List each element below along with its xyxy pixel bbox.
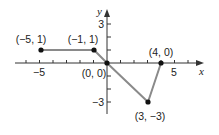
y-axis-label: y [96, 5, 102, 17]
tick-label-x-5: 5 [171, 66, 177, 78]
y-axis-arrow-icon [104, 9, 110, 17]
annotation-neg1-1: (−1, 1) [68, 33, 99, 45]
point-neg5-1 [38, 47, 43, 52]
tick-label-y-neg3: −3 [92, 96, 104, 108]
point-0-0 [104, 60, 109, 65]
point-4-0 [158, 60, 163, 65]
annotation-3-neg3: (3, −3) [135, 110, 166, 122]
point-neg1-1 [91, 47, 96, 52]
annotation-4-0: (4, 0) [149, 46, 174, 58]
tick-label-y-3: 3 [98, 18, 104, 30]
annotation-neg5-1: (−5, 1) [16, 33, 47, 45]
function-graph: x y −5 5 3 −3 (−5, 1) (−1, 1) (0, 0) (4,… [0, 0, 219, 135]
tick-label-x-neg5: −5 [33, 66, 45, 78]
point-3-neg3 [145, 99, 150, 104]
annotation-0-0: (0, 0) [82, 67, 107, 79]
axes [15, 9, 204, 114]
x-axis-label: x [198, 65, 204, 77]
